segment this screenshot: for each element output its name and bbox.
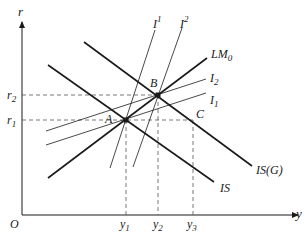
point-c-label: C bbox=[196, 107, 205, 121]
axes bbox=[22, 22, 298, 215]
r2-label: r2 bbox=[7, 88, 17, 104]
point-b-label: B bbox=[150, 76, 158, 90]
y1-label: y1 bbox=[119, 217, 130, 233]
main-curves bbox=[48, 42, 252, 182]
i-sub2-label: I2 bbox=[209, 71, 219, 87]
is-curve bbox=[48, 65, 214, 182]
y-axis-label: r bbox=[18, 4, 24, 19]
is-label: IS bbox=[219, 181, 230, 195]
i-sub1-label: I1 bbox=[209, 93, 219, 109]
is-lm-diagram: r y O r2 r1 y1 y2 y3 LM0 I2 I1 I1 I2 IS … bbox=[0, 0, 307, 238]
i-sup2-label: I2 bbox=[179, 14, 189, 31]
i-sup1-label: I1 bbox=[152, 14, 162, 31]
y3-label: y3 bbox=[186, 217, 197, 233]
r1-label: r1 bbox=[7, 113, 16, 129]
point-a-marker bbox=[124, 118, 129, 123]
y2-label: y2 bbox=[152, 217, 163, 233]
point-b-marker bbox=[156, 93, 161, 98]
investment-curves bbox=[46, 28, 206, 168]
i-sup1-curve bbox=[110, 30, 155, 168]
origin-label: O bbox=[10, 217, 19, 231]
x-axis-label: y bbox=[294, 206, 302, 221]
lm-label: LM0 bbox=[210, 47, 233, 63]
point-a-label: A bbox=[104, 112, 113, 126]
is-g-label: IS(G) bbox=[255, 163, 283, 177]
